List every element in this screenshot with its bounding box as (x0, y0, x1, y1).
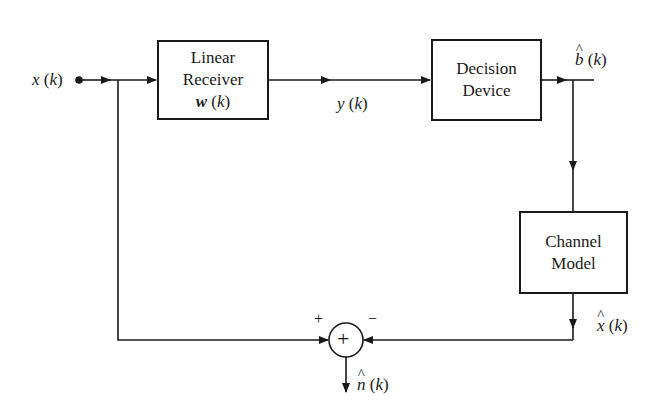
x-hat-label: x (k) (597, 316, 628, 336)
channel-model-block: Channel Model (519, 211, 628, 294)
summer-plus-symbol: + (337, 327, 349, 351)
linear-receiver-line1: Linear (191, 47, 235, 69)
decision-device-line1: Decision (456, 58, 516, 80)
y-label: y (k) (337, 94, 368, 114)
channel-model-line1: Channel (545, 231, 602, 253)
linear-receiver-line2: Receiver (183, 69, 243, 91)
b-hat-label: b (k) (575, 50, 607, 70)
summer-plus-sign: + (314, 310, 323, 328)
linear-receiver-block: Linear Receiver w (k) (157, 40, 269, 120)
linear-receiver-param: w (k) (196, 91, 230, 113)
decision-device-block: Decision Device (431, 39, 542, 121)
decision-device-line2: Device (462, 80, 510, 102)
input-label: x (k) (32, 70, 63, 90)
summer-minus-sign: − (368, 310, 377, 328)
channel-model-line2: Model (551, 253, 595, 275)
n-hat-label: n (k) (357, 375, 389, 395)
signal-wires (0, 0, 670, 415)
